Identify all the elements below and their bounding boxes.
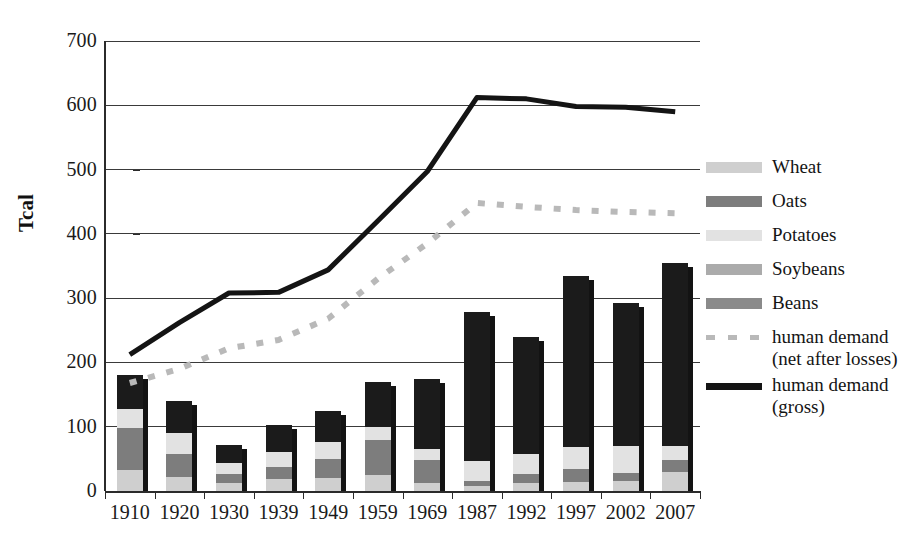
x-tick-mark <box>403 491 404 499</box>
x-tick-mark <box>204 491 205 499</box>
x-tick-mark <box>551 491 552 499</box>
line-human-demand-net <box>130 203 675 383</box>
x-tick-mark <box>303 491 304 499</box>
x-tick-mark <box>700 491 701 499</box>
y-tick-label: 300 <box>41 287 97 307</box>
y-tick-label: 200 <box>41 351 97 371</box>
x-tick-label: 1959 <box>350 501 406 523</box>
y-tick-label: 500 <box>41 159 97 179</box>
legend-label: Potatoes <box>772 224 836 246</box>
x-tick-mark <box>353 491 354 499</box>
x-tick-label: 1939 <box>251 501 307 523</box>
line-series-layer <box>105 41 700 491</box>
y-tick-label: 400 <box>41 223 97 243</box>
legend-item[interactable]: Wheat <box>706 156 906 190</box>
legend-label: human demand (net after losses) <box>772 326 898 370</box>
x-axis: 1910192019301939194919591969198719921997… <box>105 491 700 541</box>
x-tick-label: 1920 <box>151 501 207 523</box>
dashed-line-swatch <box>706 332 762 343</box>
x-tick-label: 1969 <box>399 501 455 523</box>
x-tick-label: 1910 <box>102 501 158 523</box>
plot-area <box>105 41 700 491</box>
x-tick-mark <box>601 491 602 499</box>
legend-item[interactable]: human demand (gross) <box>706 374 906 422</box>
legend-label: Wheat <box>772 156 822 178</box>
y-tick-label: 600 <box>41 94 97 114</box>
x-tick-label: 2007 <box>647 501 703 523</box>
y-tick-label: 700 <box>41 30 97 50</box>
legend-item[interactable]: Beans <box>706 292 906 326</box>
x-tick-mark <box>502 491 503 499</box>
x-tick-label: 1997 <box>548 501 604 523</box>
y-tick-label: 0 <box>41 480 97 500</box>
x-tick-label: 1949 <box>300 501 356 523</box>
x-tick-label: 1930 <box>201 501 257 523</box>
legend-label: human demand (gross) <box>772 374 889 418</box>
x-tick-mark <box>452 491 453 499</box>
x-tick-mark <box>105 491 106 499</box>
legend-item[interactable]: Oats <box>706 190 906 224</box>
x-tick-label: 1992 <box>498 501 554 523</box>
legend-item[interactable]: Soybeans <box>706 258 906 292</box>
legend-label: Soybeans <box>772 258 845 280</box>
chart-root: Tcal 7006005004003002001000 191019201930… <box>0 0 912 547</box>
legend: WheatOatsPotatoesSoybeansBeanshuman dema… <box>706 156 906 422</box>
legend-label: Oats <box>772 190 807 212</box>
beans-swatch <box>706 298 762 309</box>
wheat-swatch <box>706 162 762 173</box>
y-axis-ticks: 7006005004003002001000 <box>35 41 97 491</box>
x-tick-label: 1987 <box>449 501 505 523</box>
legend-item[interactable]: Potatoes <box>706 224 906 258</box>
legend-label: Beans <box>772 292 818 314</box>
potatoes-swatch <box>706 230 762 241</box>
line-human-demand-gross <box>130 98 675 355</box>
soybeans-swatch <box>706 264 762 275</box>
legend-item[interactable]: human demand (net after losses) <box>706 326 906 374</box>
y-tick-label: 100 <box>41 416 97 436</box>
x-tick-mark <box>650 491 651 499</box>
solid-line-swatch <box>706 383 762 390</box>
x-tick-mark <box>254 491 255 499</box>
x-tick-mark <box>155 491 156 499</box>
x-tick-label: 2002 <box>598 501 654 523</box>
oats-swatch <box>706 196 762 207</box>
